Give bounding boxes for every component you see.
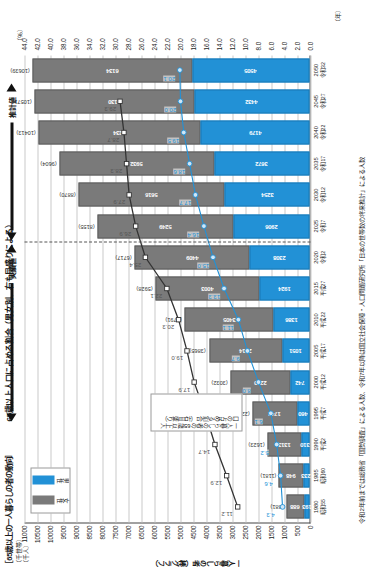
legend: 女性 男性 — [30, 467, 70, 513]
line-point-label-male: 20.1 — [163, 75, 175, 81]
y-axis-tick-left: 3500 — [216, 525, 223, 539]
y-axis-tick-right: 2.0 — [294, 41, 301, 50]
y-axis-tick-left: 6500 — [138, 525, 145, 539]
line-point-label-male: 5.2 — [260, 449, 268, 455]
line-marker — [176, 317, 180, 321]
y-axis-tick-left: 3000 — [229, 525, 236, 539]
x-axis-label: 1995平成7 — [312, 396, 326, 430]
source-note: 令和2年前までは総務省「国勢調査」による人数、令和7年以降は国立社会保障・人口問… — [357, 156, 365, 523]
line-marker — [210, 254, 215, 259]
x-axis-unit: （年） — [332, 6, 341, 24]
plot-area: 1100010500100009500900085008000750070006… — [24, 55, 310, 523]
x-axis-label: 2035令和17 — [312, 146, 326, 180]
x-axis-label: 2045令和27 — [312, 84, 326, 118]
y-axis-tick-right: 12.0 — [229, 38, 236, 50]
x-axis-label: 2020令和2 — [312, 240, 326, 274]
line-point-label-male: 17.7 — [179, 199, 191, 205]
line-marker — [126, 192, 130, 196]
line-point-label-male: 4.3 — [266, 511, 274, 517]
y-axis-tick-right: 20.0 — [177, 38, 184, 50]
line-point-label-male: 20.0 — [164, 106, 176, 112]
line-point-label-male: 16.4 — [187, 231, 199, 237]
left-axis-title: 一人暮らしの者（棒グラフ） — [150, 557, 241, 567]
y-axis-tick-right: 26.0 — [138, 38, 145, 50]
legend-item-male: 男性 — [32, 476, 68, 485]
line-point-label-total: 27.9 — [113, 198, 125, 204]
line-marker — [221, 286, 226, 291]
line-marker — [178, 98, 183, 103]
y-axis-tick-left: 9000 — [73, 525, 80, 539]
y-axis-tick-right: 34.0 — [86, 38, 93, 50]
x-axis-label: 2050令和32 — [312, 53, 326, 87]
y-axis-tick-left: 6000 — [151, 525, 158, 539]
y-axis-tick-right: 38.0 — [60, 38, 67, 50]
y-axis-tick-left: 2500 — [242, 525, 249, 539]
line-marker — [280, 504, 285, 509]
arrow-label: 推計値 — [6, 93, 16, 120]
y-axis-tick-left: 10000 — [47, 525, 54, 543]
y-axis-tick-left: 2000 — [255, 525, 262, 539]
y-axis-tick-right: 24.0 — [151, 38, 158, 50]
x-axis-label: 1990平成2 — [312, 427, 326, 461]
line-marker — [235, 504, 239, 508]
y-axis-tick-right: 44.0 — [21, 38, 28, 50]
actual-range-arrow: 実績値 — [6, 244, 16, 421]
y-axis-tick-right: 18.0 — [190, 38, 197, 50]
line-point-label-total: 17.9 — [178, 386, 190, 392]
line-point-label-male: 11.1 — [222, 324, 233, 330]
y-axis-tick-right: 30.0 — [112, 38, 119, 50]
line-point-label-total: 14.7 — [198, 448, 210, 454]
line-marker — [268, 410, 273, 415]
x-axis-label: 2005平成17 — [312, 333, 326, 367]
line-marker — [212, 442, 216, 446]
line-marker — [245, 348, 250, 353]
y-axis-tick-right: 0.0 — [307, 41, 314, 50]
y-axis-tick-right: 32.0 — [99, 38, 106, 50]
line-marker — [124, 161, 128, 165]
line-point-label-male: 8.0 — [242, 387, 250, 393]
line-marker — [235, 317, 240, 322]
y-axis-tick-right: 36.0 — [73, 38, 80, 50]
legend-item-female: 女性 — [32, 496, 68, 505]
arrow-head-left — [6, 413, 16, 421]
callout-ratio-text: 一人暮らしの者の65歳以上人口の占める割合（右目盛り） — [154, 413, 238, 428]
y-axis-tick-right: 14.0 — [216, 38, 223, 50]
actual-estimate-divider — [24, 241, 310, 242]
line-marker — [201, 223, 206, 228]
line-marker — [117, 99, 121, 103]
rotated-poster-wrapper: ［65歳以上の一人暮らしの者の動向］ 65歳以上人口に占める割合（男女別、右も目… — [0, 0, 368, 571]
y-axis-tick-left: 8000 — [99, 525, 106, 539]
bracket-title: ［65歳以上の一人暮らしの者の動向］ — [2, 450, 13, 567]
x-axis-label: 1980昭和55 — [312, 489, 326, 523]
y-axis-tick-right: 28.0 — [125, 38, 132, 50]
y-axis-tick-right: 22.0 — [164, 38, 171, 50]
line-point-label-total: 20.3 — [162, 323, 174, 329]
line-point-label-total: 11.2 — [221, 510, 232, 516]
line-point-label-total: 26.9 — [119, 230, 131, 236]
line-marker — [177, 67, 182, 72]
line-point-label-total: 19.0 — [171, 354, 183, 360]
line-marker — [191, 379, 195, 383]
line-point-label-total: 25.4 — [129, 261, 141, 267]
line-marker — [224, 473, 228, 477]
arrow-shaft — [10, 122, 13, 230]
x-axis-label: 2015平成27 — [312, 271, 326, 305]
y-axis-tick-right: 6.0 — [268, 41, 275, 50]
y-axis-tick-left: 8500 — [86, 525, 93, 539]
arrow-head-right — [6, 244, 16, 252]
line-marker — [278, 473, 283, 478]
y-axis-tick-left: 4500 — [190, 525, 197, 539]
arrow-shaft — [10, 283, 13, 411]
y-axis-tick-left: 10500 — [34, 525, 41, 543]
line-point-label-male: 9.7 — [231, 355, 239, 361]
arrow-label: 実績値 — [6, 254, 16, 281]
y-axis-tick-right: 16.0 — [203, 38, 210, 50]
y-axis-tick-left: 11000 — [21, 525, 28, 542]
arrow-head-right — [6, 83, 16, 91]
y-axis-tick-left: 1500 — [268, 525, 275, 539]
y-axis-tick-left: 500 — [294, 525, 301, 536]
line-path — [120, 101, 238, 507]
x-axis-label: 2010平成22 — [312, 302, 326, 336]
line-marker — [184, 348, 188, 352]
legend-swatch-male — [32, 476, 54, 485]
